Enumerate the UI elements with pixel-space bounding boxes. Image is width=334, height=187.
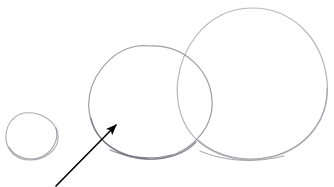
circle-large <box>177 8 327 160</box>
sketch-drawing <box>0 0 334 187</box>
circle-medium <box>89 46 212 160</box>
annotation-arrow <box>56 125 116 186</box>
figure-canvas <box>0 0 334 187</box>
circle-small <box>6 113 58 160</box>
